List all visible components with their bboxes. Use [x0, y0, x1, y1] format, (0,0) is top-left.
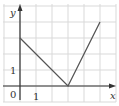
x-axis-arrow-icon — [109, 84, 116, 89]
y-axis-label: y — [9, 7, 16, 18]
x-tick-label: 1 — [33, 91, 39, 102]
axes — [3, 4, 116, 100]
x-axis-label: x — [110, 90, 116, 101]
y-tick-label: 1 — [10, 65, 16, 76]
y-axis-arrow-icon — [18, 4, 23, 11]
chart: y x 0 1 1 — [0, 0, 119, 106]
origin-label: 0 — [10, 89, 16, 100]
